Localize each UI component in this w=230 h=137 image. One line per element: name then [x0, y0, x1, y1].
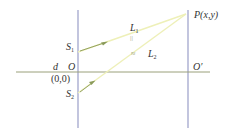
arrow-l2 [80, 83, 92, 92]
label-origin-o: O [68, 62, 75, 72]
label-l1: L1 [130, 23, 139, 34]
label-point-p: P(x,y) [194, 10, 218, 20]
label-s1: S1 [66, 42, 74, 53]
label-s2: S2 [66, 89, 74, 100]
label-o-prime: O′ [193, 62, 202, 72]
label-l2: L2 [148, 49, 157, 60]
arrow-l1 [80, 43, 104, 51]
label-origin-coords: (0,0) [51, 74, 70, 84]
tick-mark-l1: || [130, 35, 133, 42]
label-distance-d: d [53, 62, 58, 72]
arrowhead-l1-icon [101, 42, 108, 46]
tick-mark-l2: ≈ [131, 50, 135, 58]
